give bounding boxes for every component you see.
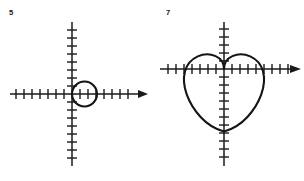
x-axis-arrow-icon bbox=[138, 90, 148, 98]
x-axis-arrow-icon bbox=[290, 65, 301, 73]
circle-figure-graphic bbox=[0, 0, 152, 181]
cardioid-figure-graphic bbox=[152, 0, 304, 181]
figure-panel-cardioid: 7 bbox=[152, 0, 304, 181]
figure-panel-circle: 5 bbox=[0, 0, 152, 181]
figure-sheet: 5 bbox=[0, 0, 304, 181]
